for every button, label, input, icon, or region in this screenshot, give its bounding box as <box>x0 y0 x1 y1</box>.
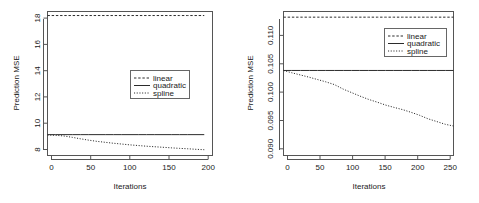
right-legend: linear quadratic spline <box>385 29 447 57</box>
left-xtick-label: 150 <box>162 163 176 172</box>
right-y-axis: 0.090 0.095 0.100 0.105 0.110 <box>266 19 283 159</box>
left-ytick-label: 16 <box>33 39 42 48</box>
right-xtick-label: 100 <box>346 163 360 172</box>
right-ytick-label: 0.110 <box>266 25 275 45</box>
left-panel-svg: 8 10 12 14 16 18 Prediction MSE 0 50 100 <box>0 0 239 203</box>
right-panel-svg: 0.090 0.095 0.100 0.105 0.110 Prediction… <box>239 0 479 203</box>
left-ytick-label: 8 <box>33 147 42 152</box>
right-x-axis: 0 50 100 150 200 250 <box>285 156 457 173</box>
left-xtick-label: 0 <box>49 163 54 172</box>
chart-right-panel: 0.090 0.095 0.100 0.105 0.110 Prediction… <box>239 0 479 203</box>
left-xtick-label: 100 <box>123 163 137 172</box>
right-x-axis-title: Iterations <box>353 182 386 191</box>
left-ytick-label: 18 <box>33 13 42 22</box>
left-xtick-label: 50 <box>86 163 95 172</box>
right-ytick-label: 0.100 <box>266 82 275 103</box>
right-ytick-label: 0.105 <box>266 53 275 74</box>
left-legend: linear quadratic spline <box>131 71 190 99</box>
left-y-axis-title: Prediction MSE <box>12 55 21 110</box>
left-x-axis: 0 50 100 150 200 <box>49 156 215 173</box>
right-y-axis-title: Prediction MSE <box>246 55 255 110</box>
right-legend-label-spline: spline <box>407 47 428 56</box>
right-xtick-label: 50 <box>316 163 325 172</box>
left-ytick-label: 12 <box>33 92 42 101</box>
left-x-axis-title: Iterations <box>114 182 147 191</box>
right-ytick-label: 0.095 <box>266 110 275 131</box>
right-ytick-label: 0.090 <box>266 138 275 159</box>
figure-panel-pair: 8 10 12 14 16 18 Prediction MSE 0 50 100 <box>0 0 479 203</box>
right-series-spline <box>284 70 454 126</box>
left-y-axis: 8 10 12 14 16 18 <box>33 13 47 152</box>
left-legend-label-spline: spline <box>153 89 174 98</box>
right-xtick-label: 150 <box>378 163 392 172</box>
right-xtick-label: 0 <box>285 163 290 172</box>
chart-left-panel: 8 10 12 14 16 18 Prediction MSE 0 50 100 <box>0 0 239 203</box>
right-xtick-label: 200 <box>411 163 425 172</box>
left-ytick-label: 14 <box>33 66 42 75</box>
left-series-spline <box>48 135 205 150</box>
left-ytick-label: 10 <box>33 118 42 127</box>
left-xtick-label: 200 <box>202 163 216 172</box>
right-xtick-label: 250 <box>444 163 458 172</box>
